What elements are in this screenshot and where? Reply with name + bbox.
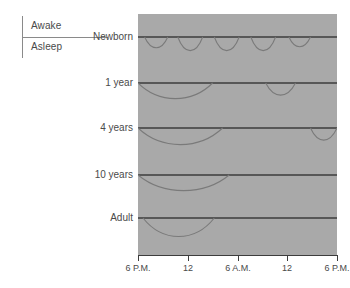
x-tick-label-2: 6 A.M. (225, 264, 251, 273)
y-axis-label-10-years: 10 years (95, 170, 133, 180)
sleep-curves-svg (138, 14, 337, 255)
sleep-curve-4-years-0 (138, 128, 223, 145)
sleep-curve-10-years-0 (138, 175, 229, 191)
y-axis-label-1-year: 1 year (105, 78, 133, 88)
x-tick-label-0: 6 P.M. (126, 264, 151, 273)
y-axis-category-labels: Newborn1 year4 years10 yearsAdult (0, 0, 133, 288)
x-tick-4 (337, 255, 338, 261)
sleep-pattern-figure: Awake Asleep Newborn1 year4 years10 year… (0, 0, 350, 288)
y-axis-label-newborn: Newborn (93, 32, 133, 42)
sleep-curve-newborn-4 (289, 37, 311, 47)
y-axis-label-4-years: 4 years (100, 123, 133, 133)
sleep-curve-4-years-1 (311, 128, 338, 140)
sleep-curve-adult-0 (143, 218, 214, 237)
x-tick-label-1: 12 (183, 264, 193, 273)
x-tick-label-4: 6 P.M. (325, 264, 350, 273)
sleep-curve-1-year-1 (266, 83, 296, 95)
x-tick-label-3: 12 (282, 264, 292, 273)
x-tick-3 (287, 255, 288, 261)
x-tick-2 (238, 255, 239, 261)
plot-area (138, 14, 337, 255)
sleep-curve-newborn-0 (145, 37, 168, 48)
y-axis-label-adult: Adult (110, 213, 133, 223)
sleep-curve-newborn-2 (214, 37, 239, 51)
sleep-curve-1-year-0 (138, 83, 213, 99)
x-tick-0 (138, 255, 139, 261)
x-tick-1 (188, 255, 189, 261)
sleep-curve-newborn-1 (178, 37, 203, 51)
sleep-curve-newborn-3 (251, 37, 276, 51)
